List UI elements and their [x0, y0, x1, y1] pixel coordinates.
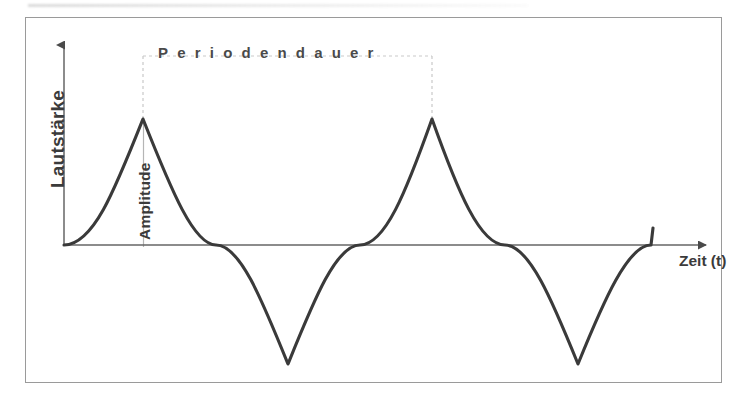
y-axis-label: Lautstärke	[47, 90, 69, 188]
figure-root: Lautstärke Amplitude Zeit (t) Periodenda…	[0, 0, 738, 401]
x-axis-label: Zeit (t)	[679, 252, 726, 270]
amplitude-annotation-label: Amplitude	[136, 162, 154, 240]
period-annotation-label: Periodendauer	[158, 44, 383, 61]
period-bracket-dashed	[143, 56, 432, 122]
sine-wave-curve	[64, 119, 653, 364]
